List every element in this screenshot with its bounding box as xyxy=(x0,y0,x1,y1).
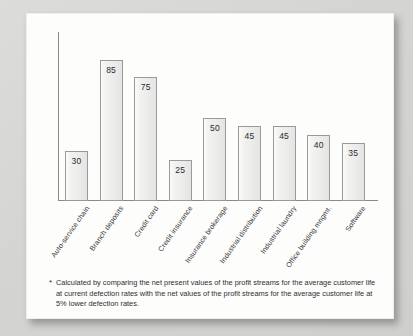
bar-7: 40 xyxy=(307,135,330,201)
figure-card: 308575255045454035 Auto-service chainBra… xyxy=(26,13,394,319)
bar-value-label: 75 xyxy=(135,82,156,92)
bar-4: 50 xyxy=(203,118,226,201)
bar-value-label: 40 xyxy=(308,140,329,150)
footnote: * Calculated by comparing the net presen… xyxy=(49,278,377,310)
category-label-6: Industrial laundry xyxy=(259,204,299,255)
category-label-3: Credit insurance xyxy=(156,204,194,253)
bar-2: 75 xyxy=(134,77,157,202)
bar-0: 30 xyxy=(65,151,88,201)
bar-value-label: 50 xyxy=(204,123,225,133)
bar-5: 45 xyxy=(238,126,261,201)
bar-value-label: 30 xyxy=(66,156,87,166)
bar-value-label: 45 xyxy=(239,131,260,141)
bar-chart-plot: 308575255045454035 Auto-service chainBra… xyxy=(27,14,393,318)
category-label-1: Branch deposits xyxy=(88,204,126,253)
bar-3: 25 xyxy=(169,160,192,202)
category-label-0: Auto-service chain xyxy=(49,204,91,259)
bar-6: 45 xyxy=(273,126,296,201)
bar-value-label: 45 xyxy=(274,131,295,141)
y-axis-line xyxy=(58,32,59,201)
category-label-8: Software xyxy=(344,204,368,233)
bar-value-label: 35 xyxy=(343,148,364,158)
category-label-2: Credit card xyxy=(132,204,160,239)
scanned-page-background: 308575255045454035 Auto-service chainBra… xyxy=(0,0,413,336)
footnote-marker: * xyxy=(49,277,52,288)
bar-8: 35 xyxy=(342,143,365,201)
footnote-text: Calculated by comparing the net present … xyxy=(49,278,377,310)
bar-value-label: 85 xyxy=(101,65,122,75)
bar-1: 85 xyxy=(100,60,123,201)
bar-value-label: 25 xyxy=(170,165,191,175)
